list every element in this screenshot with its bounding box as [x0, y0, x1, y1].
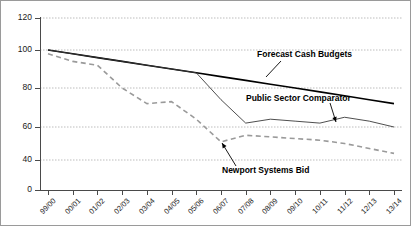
arrow-public-sector-comparator-head: [332, 117, 336, 122]
annotation-pointers: [0, 0, 412, 227]
annotation-public-sector-comparator: Public Sector Comparator: [246, 94, 351, 103]
leader-forecast-cash-budgets: [266, 61, 281, 77]
annotation-forecast-cash-budgets: Forecast Cash Budgets: [257, 50, 352, 59]
annotation-newport-systems-bid: Newport Systems Bid: [222, 166, 309, 175]
arrow-newport-systems-bid-head: [222, 143, 227, 148]
chart-container: 0406080100120 99/0000/0101/0202/0303/040…: [0, 0, 412, 227]
